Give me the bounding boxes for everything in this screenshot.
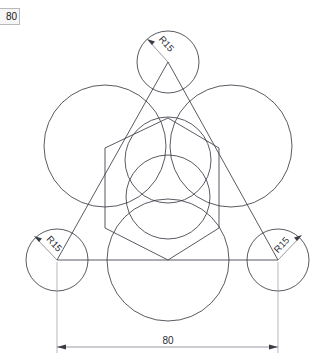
outer-triangle (57, 62, 278, 260)
radius-label-right: R15 (271, 234, 291, 254)
dimension-arrow-left-icon (57, 345, 66, 350)
radius-label-top: R15 (157, 33, 177, 53)
mid-circle-center-upper (125, 117, 211, 203)
dimension-label-80: 80 (162, 335, 174, 346)
radius-arrow-top-icon (147, 39, 155, 45)
radius-arrow-left-icon (34, 236, 42, 242)
technical-drawing-canvas: 80 R15 R15 R15 (0, 0, 335, 364)
large-circle-upper-right (170, 85, 292, 207)
dimension-arrow-right-icon (269, 345, 278, 350)
radius-label-left: R15 (45, 233, 65, 253)
